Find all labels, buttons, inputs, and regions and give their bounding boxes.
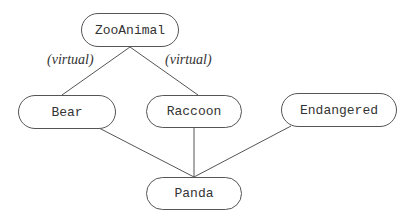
edge-bear-panda [99,128,194,177]
edge-endangered-panda [194,126,291,177]
node-panda: Panda [146,177,242,210]
edge-label-virtual-raccoon: (virtual) [165,52,212,68]
node-endangered: Endangered [281,93,397,127]
node-raccoon: Raccoon [146,95,242,128]
node-zooanimal: ZooAnimal [81,13,179,47]
edge-label-virtual-bear: (virtual) [47,52,94,68]
node-bear: Bear [18,95,116,129]
inheritance-diagram: ZooAnimal Bear Raccoon Endangered Panda … [0,0,418,220]
